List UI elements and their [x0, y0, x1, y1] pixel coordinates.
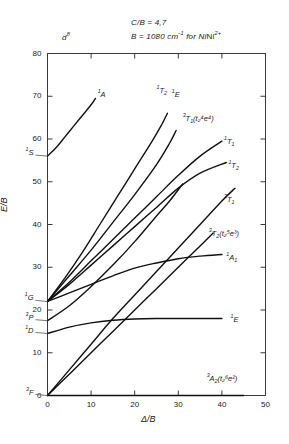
plot-canvas: [0, 0, 289, 444]
axis-ticks: [48, 54, 266, 396]
energy-curve: [48, 141, 222, 301]
energy-curve: [48, 188, 235, 395]
energy-level-curves: [48, 98, 244, 395]
term-leader: [36, 320, 48, 321]
energy-curve: [48, 319, 222, 334]
energy-curve: [48, 163, 227, 302]
term-leader: [36, 155, 48, 156]
tanabe-sugano-diagram: d8 C/B = 4,7 B = 1080 cm-1 for NiNi2+ E/…: [0, 0, 289, 444]
term-leader-lines: [36, 155, 48, 395]
energy-curve: [48, 184, 183, 321]
plot-frame: [48, 54, 266, 396]
term-leader: [36, 333, 48, 334]
term-leader: [36, 395, 48, 396]
energy-curve: [48, 98, 96, 156]
plot-border: [48, 54, 266, 396]
energy-curve: [48, 113, 168, 301]
term-leader: [36, 300, 48, 301]
